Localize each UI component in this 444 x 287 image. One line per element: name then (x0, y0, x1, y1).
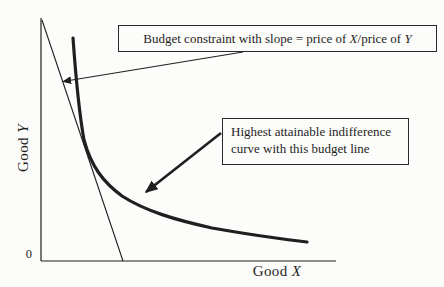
indifference-callout-line2: curve with this budget line (231, 141, 370, 156)
indifference-callout-arrow (146, 133, 221, 192)
indifference-callout-line1: Highest attainable indifference (231, 124, 391, 139)
y-axis-label: Good Y (15, 123, 31, 172)
x-axis-label: Good X (253, 263, 302, 279)
budget-indifference-diagram: Budget constraint with slope = price of … (0, 0, 444, 287)
origin-label: 0 (26, 247, 32, 261)
budget-callout-arrow (63, 52, 243, 82)
budget-callout-label: Budget constraint with slope = price of … (143, 31, 413, 46)
economics-figure: Budget constraint with slope = price of … (0, 0, 444, 287)
